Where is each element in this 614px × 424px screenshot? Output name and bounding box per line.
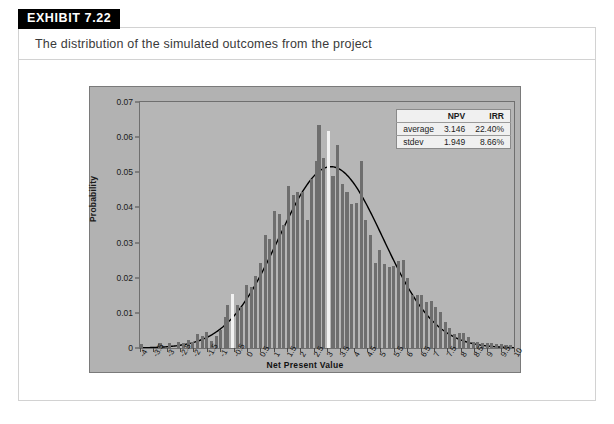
histogram-bar (292, 195, 295, 348)
y-axis-tick-label: 0.04 (90, 202, 133, 212)
histogram-bar (397, 261, 400, 349)
stats-cell-irr: 22.40% (471, 123, 510, 136)
stats-row-label: average (397, 123, 440, 136)
histogram-bar (310, 179, 313, 348)
histogram-bar (282, 225, 285, 348)
histogram-bar (264, 235, 267, 348)
histogram-bar (374, 263, 377, 348)
y-axis-tick-label: 0.05 (90, 167, 133, 177)
histogram-bar (439, 312, 442, 348)
histogram-bar (411, 295, 414, 348)
histogram-bar (331, 176, 334, 348)
histogram-bar (392, 266, 395, 348)
histogram-bar (231, 294, 234, 348)
histogram-bar (273, 211, 276, 348)
exhibit-badge: EXHIBIT 7.22 (18, 9, 120, 29)
x-axis-tick-label: 6 (405, 350, 415, 358)
histogram-bar (420, 295, 423, 348)
x-axis-title: Net Present Value (90, 360, 520, 370)
histogram-bar (406, 278, 409, 348)
histogram-bar (425, 302, 428, 348)
x-axis-tick-label: 10 (512, 346, 524, 358)
histogram-bar (490, 343, 493, 348)
exhibit-caption-text: The distribution of the simulated outcom… (35, 37, 372, 51)
x-axis-tick-label: 7 (432, 350, 442, 358)
y-axis-tick-label: 0.01 (90, 308, 133, 318)
histogram-bar (388, 267, 391, 348)
exhibit-caption-bar: The distribution of the simulated outcom… (19, 28, 595, 60)
y-axis-tick-label: 0.07 (90, 97, 133, 107)
y-axis-tick-label: 0.03 (90, 238, 133, 248)
x-axis-tick-label: 8 (459, 350, 469, 358)
x-axis-tick-label: 3 (325, 350, 335, 358)
histogram-bar (240, 307, 243, 348)
stats-col-npv: NPV (440, 110, 471, 123)
y-axis-tick-label: 0.02 (90, 273, 133, 283)
x-axis-tick-label: -2 (191, 348, 202, 359)
histogram-bar (369, 235, 372, 348)
histogram-bar (434, 307, 437, 348)
histogram-bar (268, 239, 271, 348)
histogram-bar (360, 161, 363, 348)
histogram-bar (341, 184, 344, 348)
histogram-bar (254, 276, 257, 348)
histogram-bar (226, 305, 229, 348)
stats-row-average: average 3.146 22.40% (397, 123, 511, 136)
x-axis-tick-label: 9 (485, 350, 495, 358)
histogram-bar (259, 263, 262, 348)
histogram-bar (462, 333, 465, 348)
stats-col-irr: IRR (471, 110, 510, 123)
x-axis-tick-label: -4 (138, 348, 149, 359)
y-axis-tick-label: 0.06 (90, 132, 133, 142)
stats-cell-npv: 3.146 (440, 123, 471, 136)
histogram-bar (402, 260, 405, 348)
x-axis-tick-label: -1 (218, 348, 229, 359)
stats-cell-npv: 1.949 (440, 136, 471, 149)
histogram-bar (345, 192, 348, 348)
stats-table-header-row: NPV IRR (397, 110, 511, 123)
histogram-bar (205, 332, 208, 348)
histogram-bar (430, 301, 433, 348)
histogram-bar (444, 322, 447, 348)
x-axis-tick-label: 1 (272, 350, 282, 358)
histogram-bar (327, 131, 330, 348)
x-axis-tick-label: 4 (352, 350, 362, 358)
histogram-bar (350, 204, 353, 348)
histogram-bar (301, 192, 304, 348)
histogram-bar (196, 334, 199, 348)
y-axis-tick-label: 0 (90, 343, 133, 353)
stats-col-blank (397, 110, 440, 123)
x-axis-tick-label: 5 (378, 350, 388, 358)
histogram-bar (336, 145, 339, 348)
x-axis-tick-label: -3 (165, 348, 176, 359)
y-axis-title: Probability (88, 176, 98, 222)
histogram-bar (467, 337, 470, 348)
histogram-bar (219, 330, 222, 348)
histogram-bar (495, 344, 498, 348)
exhibit-page: EXHIBIT 7.22 The distribution of the sim… (0, 0, 614, 424)
histogram-bar (296, 192, 299, 348)
histogram-bar (306, 220, 309, 348)
histogram-bar (287, 186, 290, 348)
histogram-bar (322, 158, 325, 348)
histogram-bar (364, 220, 367, 348)
histogram-bar (355, 203, 358, 348)
histogram-bar (278, 214, 281, 348)
x-axis-tick-label: 0 (245, 350, 255, 358)
stats-row-label: stdev (397, 136, 440, 149)
exhibit-card: The distribution of the simulated outcom… (18, 27, 596, 401)
histogram-bar (317, 125, 320, 348)
x-axis-tick-label: 2 (298, 350, 308, 358)
histogram-bar (201, 336, 204, 348)
histogram-bar (245, 285, 248, 348)
histogram-bar (383, 264, 386, 348)
stats-cell-irr: 8.66% (471, 136, 510, 149)
chart-container: Probability 00.010.020.030.040.050.060.0… (89, 86, 521, 373)
histogram-bar (458, 333, 461, 348)
stats-row-stdev: stdev 1.949 8.66% (397, 136, 511, 149)
histogram-bar (250, 287, 253, 349)
histogram-bar (416, 295, 419, 348)
stats-table: NPV IRR average 3.146 22.40% stdev 1.949… (396, 109, 511, 149)
histogram-bar (378, 250, 381, 348)
